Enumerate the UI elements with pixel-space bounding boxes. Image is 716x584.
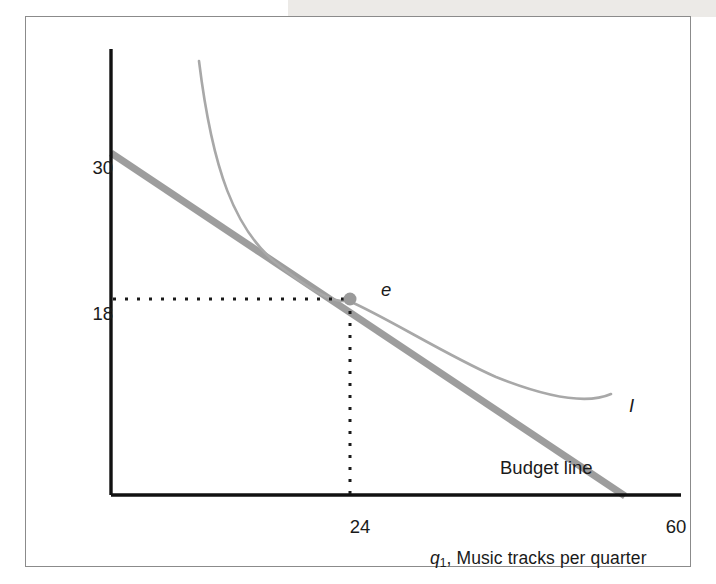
x-axis-variable: q <box>430 548 440 568</box>
equilibrium-point-e <box>344 293 357 306</box>
figure-frame: q2, Live music per quarter q1, Music tra… <box>25 16 691 567</box>
indifference-curve-label: I <box>629 395 634 417</box>
budget-line-label: Budget line <box>500 457 593 479</box>
y-tick-label-30: 30 <box>69 157 113 179</box>
economics-plot <box>26 17 690 566</box>
budget-line <box>111 153 625 496</box>
x-axis-title: q1, Music tracks per quarter <box>430 548 647 570</box>
equilibrium-point-label: e <box>381 279 391 301</box>
x-tick-label-24: 24 <box>330 516 390 538</box>
x-axis-subscript: 1 <box>440 556 447 570</box>
y-tick-label-18: 18 <box>69 303 113 325</box>
scanned-page: q2, Live music per quarter q1, Music tra… <box>0 0 716 584</box>
x-tick-label-60: 60 <box>646 516 706 538</box>
x-axis-title-text: , Music tracks per quarter <box>447 548 647 568</box>
scan-artifact-band <box>288 0 716 17</box>
